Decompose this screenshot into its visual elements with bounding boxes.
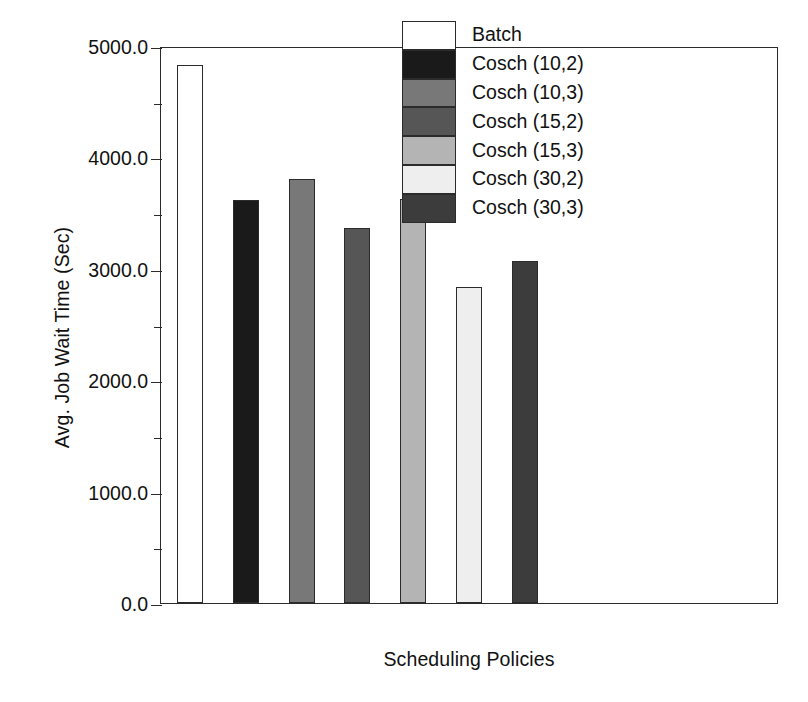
legend-label: Cosch (30,2) <box>472 170 584 190</box>
legend-label: Cosch (10,2) <box>472 54 584 74</box>
y-tick-label: 0.0 <box>121 595 148 615</box>
y-minor-tick-mark <box>154 438 162 439</box>
bar-cosch-30-3 <box>512 261 538 603</box>
y-axis-title: Avg. Job Wait Time (Sec) <box>51 158 74 518</box>
y-tick-mark <box>151 271 162 272</box>
bar-cosch-15-3 <box>400 199 426 603</box>
legend-swatch <box>402 165 456 194</box>
y-tick-label: 2000.0 <box>88 372 148 392</box>
legend-label: Batch <box>472 26 522 46</box>
y-tick-mark <box>151 605 162 606</box>
y-tick-mark <box>151 494 162 495</box>
legend-swatch <box>402 79 456 108</box>
y-minor-tick-mark <box>154 327 162 328</box>
y-tick-mark <box>151 159 162 160</box>
y-minor-tick-mark <box>154 104 162 105</box>
bar-cosch-10-2 <box>233 200 259 603</box>
y-minor-tick-mark <box>154 215 162 216</box>
legend-label: Cosch (10,3) <box>472 83 584 103</box>
legend-swatch <box>402 194 456 223</box>
y-minor-tick-mark <box>154 549 162 550</box>
y-tick-label: 1000.0 <box>88 484 148 504</box>
y-tick-mark <box>151 382 162 383</box>
y-tick-mark <box>151 48 162 49</box>
bar-cosch-15-2 <box>344 228 370 603</box>
legend-label: Cosch (15,3) <box>472 141 584 161</box>
y-tick-label: 5000.0 <box>88 38 148 58</box>
legend-label: Cosch (15,2) <box>472 112 584 132</box>
legend-label: Cosch (30,3) <box>472 198 584 218</box>
y-tick-label: 3000.0 <box>88 261 148 281</box>
legend-swatch <box>402 50 456 79</box>
bar-cosch-30-2 <box>456 287 482 603</box>
bar-cosch-10-3 <box>289 179 315 603</box>
bar-chart-figure: Avg. Job Wait Time (Sec) 0.01000.02000.0… <box>0 0 808 702</box>
bar-batch <box>177 65 203 603</box>
plot-area: 0.01000.02000.03000.04000.05000.0 <box>160 47 778 604</box>
legend-swatch <box>402 21 456 50</box>
y-tick-label: 4000.0 <box>88 150 148 170</box>
legend-swatch <box>402 136 456 165</box>
legend-swatch <box>402 107 456 136</box>
x-axis-title: Scheduling Policies <box>160 648 778 671</box>
